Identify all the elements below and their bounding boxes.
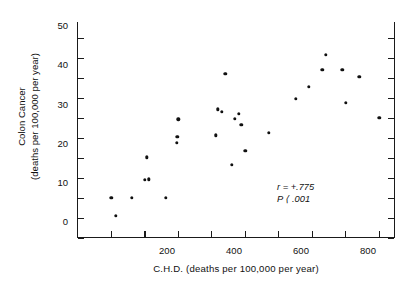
data-point <box>164 196 167 199</box>
data-point <box>110 196 113 199</box>
data-point <box>378 116 381 119</box>
y-tick-right-10 <box>388 198 394 199</box>
data-point <box>344 101 347 104</box>
data-point <box>244 149 247 152</box>
y-tick-right-20 <box>388 158 394 159</box>
x-tick-100 <box>111 231 112 237</box>
y-axis-title-line2: (deaths per 100,000 per year) <box>28 37 41 197</box>
data-point <box>145 155 148 158</box>
x-axis-title: C.H.D. (deaths per 100,000 per year) <box>77 263 395 274</box>
data-point <box>230 163 233 166</box>
pvalue-annotation: P ⟨ .001 <box>277 193 314 205</box>
y-tick-right-25 <box>388 138 394 139</box>
data-point <box>267 131 270 134</box>
data-point <box>224 72 227 75</box>
data-point <box>341 68 344 71</box>
y-tick-30 <box>78 118 84 119</box>
data-point <box>357 75 360 78</box>
x-tick-700 <box>312 231 313 237</box>
data-point <box>220 110 223 113</box>
x-tick-400 <box>211 231 212 237</box>
y-tick-45 <box>78 58 84 59</box>
data-point <box>114 214 117 217</box>
y-tick-0 <box>78 238 84 239</box>
data-point <box>175 141 178 144</box>
y-axis-title-line1: Colon Cancer <box>16 37 29 197</box>
data-point <box>240 123 243 126</box>
data-point <box>307 85 310 88</box>
data-point <box>294 97 297 100</box>
data-point <box>324 53 327 56</box>
y-tick-20 <box>78 158 84 159</box>
data-point <box>214 133 217 136</box>
data-point <box>216 107 219 110</box>
x-tick-500 <box>245 231 246 237</box>
y-tick-5 <box>78 218 84 219</box>
y-tick-50 <box>78 38 84 39</box>
data-point <box>143 178 146 181</box>
y-tick-right-50 <box>388 38 394 39</box>
x-tick-600 <box>278 231 279 237</box>
y-tick-35 <box>78 98 84 99</box>
y-tick-right-35 <box>388 98 394 99</box>
statistics-annotation: r = +.775 P ⟨ .001 <box>277 181 314 205</box>
data-point <box>176 135 179 138</box>
plot-area <box>77 22 395 238</box>
data-point <box>233 117 236 120</box>
x-tick-300 <box>178 231 179 237</box>
x-tick-900 <box>379 231 380 237</box>
correlation-annotation: r = +.775 <box>277 181 314 193</box>
y-tick-15 <box>78 178 84 179</box>
data-point <box>177 117 180 120</box>
y-tick-40 <box>78 78 84 79</box>
y-tick-right-30 <box>388 118 394 119</box>
data-point <box>130 196 133 199</box>
y-tick-25 <box>78 138 84 139</box>
y-tick-right-45 <box>388 58 394 59</box>
y-axis-title: Colon Cancer (deaths per 100,000 per yea… <box>16 37 41 197</box>
y-tick-right-5 <box>388 218 394 219</box>
scatter-plot-figure: 50 40 30 20 10 0 200 400 600 800 Colon C… <box>0 0 414 288</box>
x-tick-label-600: 600 <box>284 246 318 256</box>
y-tick-right-0 <box>388 238 394 239</box>
y-tick-right-40 <box>388 78 394 79</box>
x-tick-label-400: 400 <box>217 246 251 256</box>
x-tick-label-800: 800 <box>351 246 385 256</box>
data-point <box>237 112 240 115</box>
y-tick-right-15 <box>388 178 394 179</box>
x-tick-label-200: 200 <box>150 246 184 256</box>
x-tick-200 <box>144 231 145 237</box>
data-point <box>321 68 324 71</box>
data-point <box>147 177 150 180</box>
x-tick-800 <box>345 231 346 237</box>
y-tick-10 <box>78 198 84 199</box>
